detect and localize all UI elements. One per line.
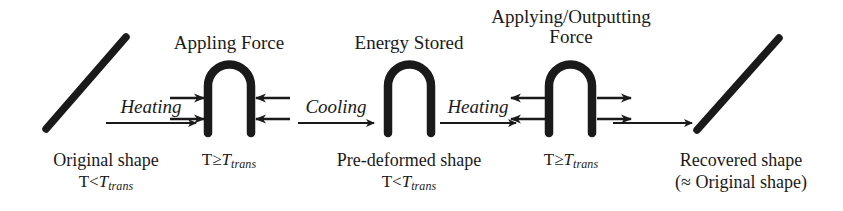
- temp-relation: <: [89, 172, 99, 191]
- temp-reference: T: [222, 150, 231, 169]
- temp-symbol: T: [202, 150, 212, 169]
- top-label-line-1: Applying/Outputting: [456, 7, 686, 27]
- state-temperature-pre-deformed-shape: T<Ttrans: [337, 172, 481, 194]
- state-name-recovered-shape: Recovered shape: [675, 150, 807, 172]
- state-label-recovered-shape: Recovered shape (≈ Original shape): [675, 150, 807, 193]
- recovering-hot-arch-glyph: [549, 65, 592, 134]
- temp-subscript: trans: [573, 157, 598, 171]
- state-name-original-shape: Original shape: [53, 150, 158, 172]
- state-name-pre-deformed-shape: Pre-deformed shape: [337, 150, 481, 172]
- original-shape-glyph: [46, 37, 126, 129]
- pre-deformed-arch-glyph: [388, 65, 431, 134]
- temp-relation: ≥: [554, 150, 563, 169]
- deformed-hot-arch-glyph: [208, 65, 251, 134]
- temp-reference: T: [564, 150, 573, 169]
- recovered-shape-glyph: [697, 38, 779, 130]
- temp-reference: T: [402, 172, 411, 191]
- temp-subscript: trans: [231, 157, 256, 171]
- recovering-hot-force-arrows: [511, 98, 631, 119]
- temp-reference: T: [99, 172, 108, 191]
- state-temperature-deformed-hot: T≥Ttrans: [202, 150, 256, 172]
- state-label-recovering-hot: T≥Ttrans: [544, 150, 598, 172]
- temp-symbol: T: [544, 150, 554, 169]
- top-label-energy-stored: Energy Stored: [355, 32, 464, 54]
- top-label-applying-outputting-force: Applying/Outputting Force: [456, 7, 686, 47]
- state-name-recovered-shape-note: (≈ Original shape): [675, 172, 807, 194]
- state-label-pre-deformed-shape: Pre-deformed shape T<Ttrans: [337, 150, 481, 193]
- shape-memory-cycle-diagram: Appling Force Energy Stored Applying/Out…: [0, 0, 843, 211]
- process-label-cooling: Cooling: [305, 96, 366, 118]
- top-label-line-2: Force: [456, 27, 686, 47]
- temp-relation: ≥: [212, 150, 221, 169]
- deformed-hot-force-arrows: [170, 98, 290, 119]
- state-label-deformed-hot: T≥Ttrans: [202, 150, 256, 172]
- process-label-heating-1: Heating: [120, 96, 181, 118]
- temp-relation: <: [392, 172, 402, 191]
- top-label-appling-force: Appling Force: [174, 32, 284, 54]
- process-label-heating-2: Heating: [447, 96, 508, 118]
- temp-subscript: trans: [411, 179, 436, 193]
- state-label-original-shape: Original shape T<Ttrans: [53, 150, 158, 193]
- temp-subscript: trans: [108, 179, 133, 193]
- temp-symbol: T: [382, 172, 392, 191]
- state-temperature-original-shape: T<Ttrans: [53, 172, 158, 194]
- temp-symbol: T: [79, 172, 89, 191]
- state-temperature-recovering-hot: T≥Ttrans: [544, 150, 598, 172]
